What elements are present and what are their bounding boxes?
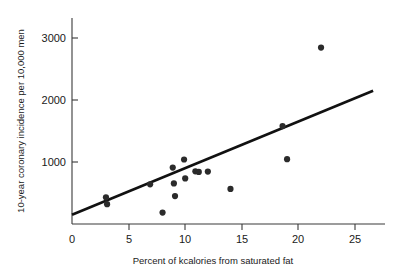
- y-axis-title: 10-year coronary incidence per 10,000 me…: [15, 29, 26, 213]
- data-point: [196, 169, 202, 175]
- data-point: [159, 209, 165, 215]
- data-point: [103, 194, 109, 200]
- data-point: [227, 186, 233, 192]
- data-point: [171, 180, 177, 186]
- x-tick-label-20: 20: [292, 233, 304, 245]
- y-tick-label-1000: 1000: [42, 156, 66, 168]
- data-point: [172, 193, 178, 199]
- x-axis-title: Percent of kcalories from saturated fat: [133, 255, 294, 266]
- x-tick-label-5: 5: [126, 233, 132, 245]
- scatter-plot-figure: 3000 2000 1000 0 5 10 15 20 25 Percent o…: [0, 0, 400, 274]
- data-point: [205, 169, 211, 175]
- data-point: [284, 156, 290, 162]
- data-point: [170, 164, 176, 170]
- data-point: [318, 45, 324, 51]
- x-tick-label-10: 10: [179, 233, 191, 245]
- x-tick-label-25: 25: [349, 233, 361, 245]
- data-point: [279, 123, 285, 129]
- data-point: [181, 156, 187, 162]
- data-point: [104, 201, 110, 207]
- data-point: [147, 181, 153, 187]
- y-tick-label-3000: 3000: [42, 32, 66, 44]
- data-point: [182, 175, 188, 181]
- y-tick-label-2000: 2000: [42, 94, 66, 106]
- x-tick-label-0: 0: [69, 233, 75, 245]
- x-tick-label-15: 15: [236, 233, 248, 245]
